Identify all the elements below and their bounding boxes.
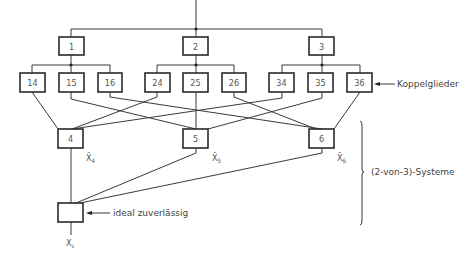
brace-icon xyxy=(360,121,364,225)
coupler-box-16: 16 xyxy=(98,73,122,92)
arrow-head-icon xyxy=(86,211,92,215)
svg-text:36: 36 xyxy=(354,78,364,88)
svg-text:6: 6 xyxy=(319,134,324,144)
final-box xyxy=(58,203,83,222)
svg-text:24: 24 xyxy=(152,78,162,88)
svg-text:2: 2 xyxy=(193,42,198,52)
output-label-xs: Xs xyxy=(66,238,75,249)
svg-text:16: 16 xyxy=(105,78,115,88)
box-1: 1 xyxy=(59,37,84,55)
svg-text:14: 14 xyxy=(27,78,37,88)
coupler-box-35: 35 xyxy=(308,73,333,92)
box-2: 2 xyxy=(183,37,208,55)
output-label-x4: X̃4 xyxy=(86,152,96,164)
svg-text:15: 15 xyxy=(66,78,76,88)
output-label-x6: X̃6 xyxy=(337,152,347,164)
output-label-x5: X̃5 xyxy=(212,152,221,164)
coupler-box-24: 24 xyxy=(145,73,170,92)
svg-text:26: 26 xyxy=(229,78,239,88)
svg-text:34: 34 xyxy=(276,78,286,88)
coupler-box-25: 25 xyxy=(183,73,208,92)
label-koppelglieder: Koppelglieder xyxy=(397,79,459,89)
label-two-of-three: (2-von-3)-Systeme xyxy=(371,167,455,177)
coupler-box-36: 36 xyxy=(347,73,372,92)
svg-text:35: 35 xyxy=(315,78,325,88)
svg-text:1: 1 xyxy=(69,42,74,52)
coupler-box-34: 34 xyxy=(269,73,294,92)
svg-text:5: 5 xyxy=(193,134,198,144)
arrow-head-icon xyxy=(374,82,380,86)
coupler-box-26: 26 xyxy=(222,73,246,92)
redundancy-diagram: 1 2 3 14 15 16 24 25 26 34 35 3 xyxy=(0,0,464,259)
voter-box-6: 6 xyxy=(309,129,334,148)
voter-box-5: 5 xyxy=(183,129,208,148)
svg-text:3: 3 xyxy=(319,42,324,52)
label-ideal: ideal zuverlässig xyxy=(113,208,188,218)
svg-text:25: 25 xyxy=(190,78,200,88)
coupler-box-15: 15 xyxy=(59,73,84,92)
voter-box-4: 4 xyxy=(58,129,83,148)
svg-text:4: 4 xyxy=(68,134,73,144)
coupler-box-14: 14 xyxy=(20,73,45,92)
box-3: 3 xyxy=(309,37,334,55)
